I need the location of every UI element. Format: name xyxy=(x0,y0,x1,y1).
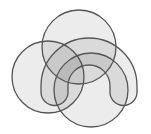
venn-diagram xyxy=(0,0,151,134)
venn-sets xyxy=(12,10,137,127)
